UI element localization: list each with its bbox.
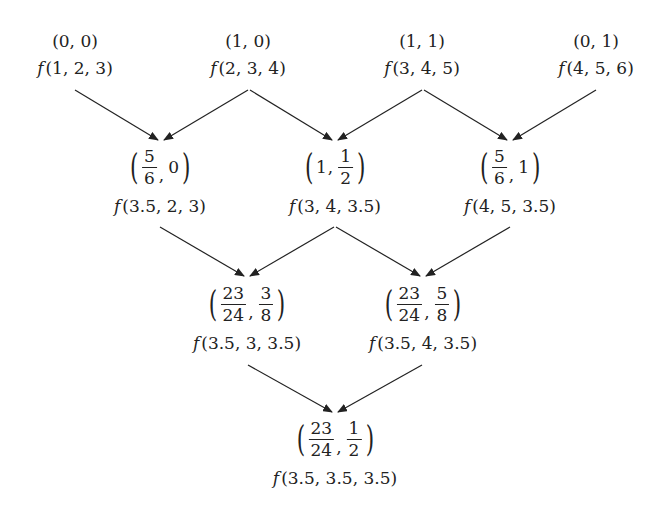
function-label: f(3.5, 3, 3.5)	[193, 333, 301, 353]
function-label: f(1, 2, 3)	[37, 58, 113, 78]
fraction: 38	[259, 285, 274, 324]
edge-n10-a	[164, 90, 248, 140]
fraction: 2324	[221, 285, 247, 324]
point-label: ( 1 , 12 )	[289, 144, 381, 190]
fraction: 56	[492, 148, 507, 187]
function-label: f(3.5, 2, 3)	[114, 196, 206, 216]
fraction: 12	[347, 420, 362, 459]
node-e: ( 2324 , 58 ) f(3.5, 4, 3.5)	[369, 281, 477, 353]
node-1-1: (1, 1) f(3, 4, 5)	[384, 30, 460, 78]
function-label: f(4, 5, 3.5)	[464, 196, 556, 216]
function-label: f(4, 5, 6)	[558, 58, 634, 78]
point-label: ( 2324 , 38 )	[193, 281, 301, 327]
function-label: f(3.5, 4, 3.5)	[369, 333, 477, 353]
point-label: ( 2324 , 12 )	[273, 416, 397, 462]
point-label: ( 56 , 1 )	[464, 144, 556, 190]
edge-n10-b	[250, 90, 332, 140]
point-label: (0, 1)	[558, 30, 634, 52]
point-label: ( 2324 , 58 )	[369, 281, 477, 327]
point-label: ( 56 , 0 )	[114, 144, 206, 190]
function-label: f(3, 4, 3.5)	[289, 196, 381, 216]
node-c: ( 56 , 1 ) f(4, 5, 3.5)	[464, 144, 556, 216]
edge-b-e	[336, 227, 420, 276]
point-label: (1, 0)	[210, 30, 286, 52]
edge-c-e	[426, 227, 510, 276]
function-label: f(2, 3, 4)	[210, 58, 286, 78]
edge-e-g	[338, 365, 422, 412]
edge-a-d	[160, 227, 244, 276]
node-0-1: (0, 1) f(4, 5, 6)	[558, 30, 634, 78]
function-label: f(3, 4, 5)	[384, 58, 460, 78]
edge-n01-c	[513, 90, 596, 140]
fraction: 56	[142, 148, 157, 187]
node-b: ( 1 , 12 ) f(3, 4, 3.5)	[289, 144, 381, 216]
node-1-0: (1, 0) f(2, 3, 4)	[210, 30, 286, 78]
edge-n11-b	[338, 90, 422, 140]
point-label: (1, 1)	[384, 30, 460, 52]
edge-n11-c	[424, 90, 507, 140]
point-label: (0, 0)	[37, 30, 113, 52]
node-g: ( 2324 , 12 ) f(3.5, 3.5, 3.5)	[273, 416, 397, 488]
node-a: ( 56 , 0 ) f(3.5, 2, 3)	[114, 144, 206, 216]
node-0-0: (0, 0) f(1, 2, 3)	[37, 30, 113, 78]
fraction: 12	[338, 148, 353, 187]
fraction: 2324	[397, 285, 423, 324]
edge-d-g	[248, 365, 332, 412]
function-label: f(3.5, 3.5, 3.5)	[273, 468, 397, 488]
edge-n00-a	[75, 90, 158, 140]
fraction: 2324	[309, 420, 335, 459]
fraction: 58	[435, 285, 450, 324]
node-d: ( 2324 , 38 ) f(3.5, 3, 3.5)	[193, 281, 301, 353]
edge-b-d	[250, 227, 334, 276]
